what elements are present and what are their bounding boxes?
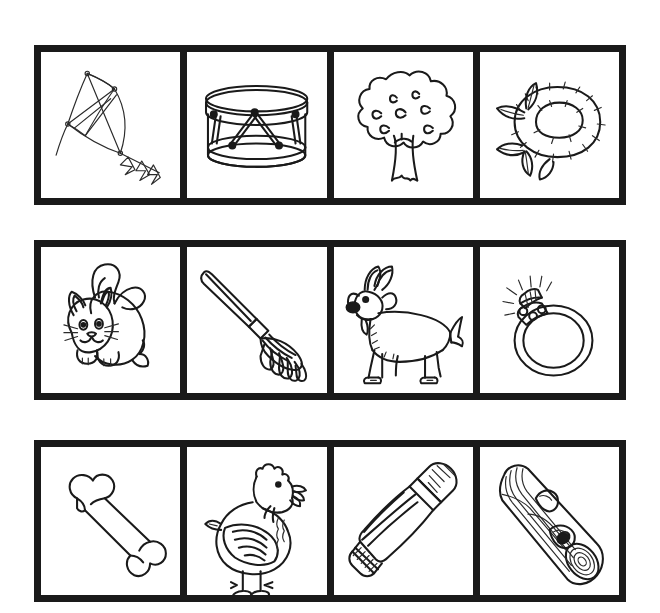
picture-cell-toothpaste-tube[interactable]: Toothpaste tube: [334, 447, 480, 595]
tree-icon: [334, 52, 473, 198]
picture-cell-nest[interactable]: Nest: [480, 52, 619, 198]
goat-icon: [334, 247, 473, 393]
picture-cell-kite[interactable]: Kite: [41, 52, 187, 198]
toothpaste-tube-icon: [334, 447, 473, 595]
worksheet-row: Bone Hen: [34, 440, 626, 602]
worksheet-row: Kite Dr: [34, 45, 626, 205]
kite-icon: [41, 52, 180, 198]
picture-cell-drum[interactable]: Drum: [187, 52, 333, 198]
ring-icon: [480, 247, 619, 393]
picture-cell-goat[interactable]: Goat: [334, 247, 480, 393]
picture-cell-rake[interactable]: Rake: [187, 247, 333, 393]
cat-icon: [41, 247, 180, 393]
picture-cell-log[interactable]: Log: [480, 447, 619, 595]
picture-cell-tree[interactable]: Tree: [334, 52, 480, 198]
bone-icon: [41, 447, 180, 595]
picture-grid-worksheet: Kite Dr: [0, 0, 660, 613]
drum-icon: [187, 52, 326, 198]
worksheet-row: Cat: [34, 240, 626, 400]
picture-cell-cat[interactable]: Cat: [41, 247, 187, 393]
picture-cell-hen[interactable]: Hen: [187, 447, 333, 595]
hen-icon: [187, 447, 326, 595]
picture-cell-bone[interactable]: Bone: [41, 447, 187, 595]
picture-cell-ring[interactable]: Ring: [480, 247, 619, 393]
log-icon: [480, 447, 619, 595]
nest-icon: [480, 52, 619, 198]
rake-icon: [187, 247, 326, 393]
